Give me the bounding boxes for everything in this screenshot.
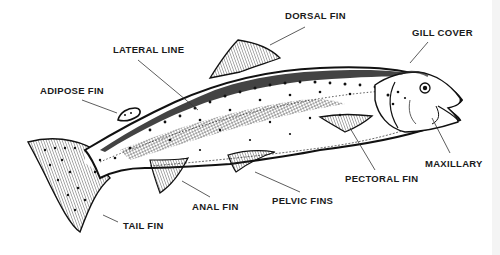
trout-anatomy-diagram: DORSAL FIN GILL COVER LATERAL LINE ADIPO…	[0, 0, 500, 255]
pelvic-fins-shape	[228, 151, 275, 172]
anal-fin-shape	[150, 158, 188, 193]
label-pelvic-fins: PELVIC FINS	[272, 195, 333, 206]
label-anal-fin: ANAL FIN	[192, 201, 239, 212]
label-tail-fin: TAIL FIN	[123, 220, 164, 231]
leader-tail-fin	[103, 215, 118, 222]
label-maxillary: MAXILLARY	[425, 158, 483, 169]
right-edge-shade	[492, 0, 500, 255]
label-dorsal-fin: DORSAL FIN	[285, 10, 346, 21]
leader-gill-cover	[410, 42, 428, 63]
leader-lateral-line	[138, 60, 198, 110]
label-gill-cover: GILL COVER	[412, 27, 473, 38]
label-pectoral-fin: PECTORAL FIN	[345, 173, 418, 184]
label-adipose-fin: ADIPOSE FIN	[40, 85, 104, 96]
trout-illustration	[0, 0, 500, 255]
head-shape	[375, 72, 460, 132]
leader-pelvic-fins	[255, 172, 300, 192]
adipose-fin-shape	[118, 108, 140, 121]
leader-anal-fin	[182, 181, 210, 197]
label-lateral-line: LATERAL LINE	[113, 44, 184, 55]
leader-adipose-fin	[82, 100, 117, 113]
leader-dorsal-fin	[270, 27, 305, 45]
